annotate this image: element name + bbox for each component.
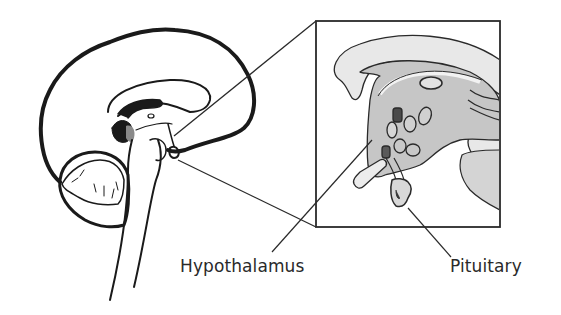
inset-oval: [420, 77, 442, 89]
zoom-line-top: [174, 21, 316, 136]
hypothalamus-label: Hypothalamus: [180, 256, 304, 276]
inset-magnified-view: [316, 21, 500, 227]
thalamus-region: [118, 100, 162, 118]
cerebellum: [60, 152, 129, 227]
zoom-line-bottom: [178, 160, 316, 227]
hypothalamus-gray: [126, 126, 135, 142]
pituitary-label: Pituitary: [450, 256, 522, 276]
zoom-callout-lines: [174, 21, 316, 227]
